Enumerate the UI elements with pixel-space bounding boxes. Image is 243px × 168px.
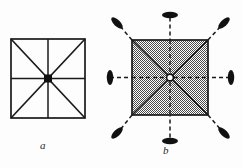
panel-b-label: b	[163, 145, 169, 156]
figure-container: a b	[0, 0, 243, 168]
panel-b-terminator-right	[228, 70, 234, 85]
panel-b-center-open-circle-marker	[167, 74, 174, 81]
figure-diagram	[0, 0, 243, 168]
panel-a-center-square-marker	[44, 75, 52, 83]
panel-a-label: a	[40, 140, 46, 151]
panel-b-terminator-left	[107, 70, 113, 85]
panel-a	[11, 39, 85, 118]
panel-b-terminator-up	[162, 12, 178, 18]
